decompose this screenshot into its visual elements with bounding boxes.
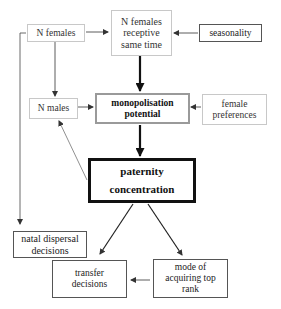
node-mode-top-rank: mode of acquiring top rank — [153, 259, 228, 298]
node-paternity-concentration: paternity concentration — [88, 158, 196, 203]
node-monopolisation-potential: monopolisation potential — [95, 93, 190, 124]
node-female-preferences: female preferences — [202, 94, 267, 125]
node-females-receptive: N females receptive same time — [111, 10, 172, 56]
diagram-canvas: N females N females receptive same time … — [0, 0, 281, 309]
node-n-females: N females — [27, 24, 85, 42]
node-seasonality: seasonality — [199, 24, 262, 42]
node-n-males: N males — [29, 98, 78, 119]
node-transfer-decisions: transfer decisions — [52, 260, 127, 298]
node-natal-dispersal: natal dispersal decisions — [13, 231, 87, 258]
